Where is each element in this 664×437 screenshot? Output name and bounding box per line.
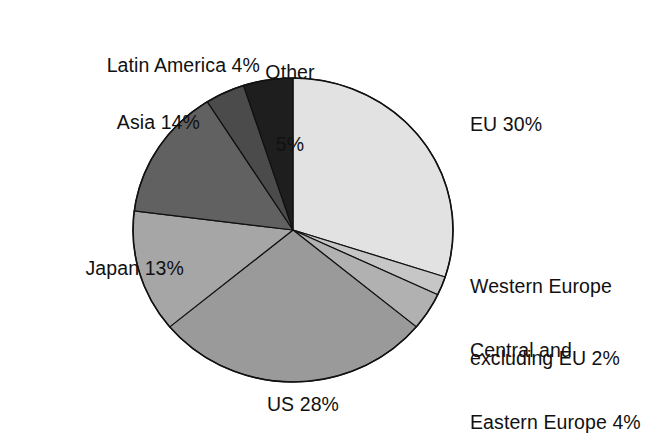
slice-label-other-line2: 5% bbox=[210, 132, 370, 156]
slice-label-japan: Japan 13% bbox=[4, 256, 184, 280]
slice-label-asia: Asia 14% bbox=[10, 110, 200, 134]
slice-label-central-eastern-europe-line1: Central and bbox=[470, 338, 660, 362]
slice-label-central-eastern-europe-line2: Eastern Europe 4% bbox=[470, 410, 660, 434]
slice-label-us: US 28% bbox=[228, 392, 378, 416]
slice-label-central-eastern-europe: Central and Eastern Europe 4% bbox=[470, 290, 660, 437]
slice-label-other-line1: Other bbox=[210, 60, 370, 84]
slice-label-other: Other 5% bbox=[210, 12, 370, 204]
slice-label-eu: EU 30% bbox=[470, 112, 630, 136]
